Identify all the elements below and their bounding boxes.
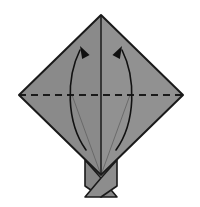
origami-figure: Origami fold step diagram Square paper r… bbox=[0, 0, 200, 207]
origami-diagram: Origami fold step diagram Square paper r… bbox=[0, 0, 200, 207]
